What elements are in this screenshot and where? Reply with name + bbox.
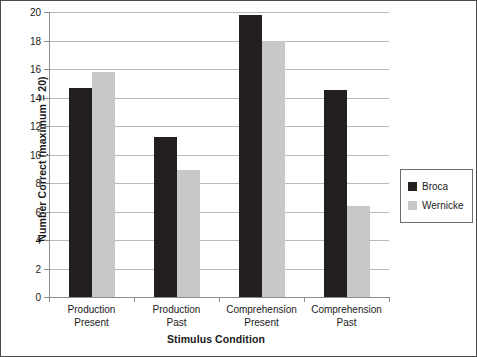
y-axis-tick-label: 16 [30,64,41,75]
x-axis-title: Stimulus Condition [1,333,431,345]
legend-label: Wernicke [422,200,464,211]
bar-broca-4 [324,90,347,297]
legend-swatch-wernicke [408,201,417,210]
bar-wernicke-4 [347,206,370,297]
bar-chart-figure: Number Correct (maximum = 20) 0246810121… [0,0,477,357]
gridline [49,12,389,13]
gridline [49,69,389,70]
legend-item-broca: Broca [408,177,472,196]
bar-wernicke-3 [262,41,285,298]
legend-item-wernicke: Wernicke [408,196,472,215]
y-axis-tick-label: 8 [35,178,41,189]
y-axis-tick-label: 12 [30,121,41,132]
y-axis-tick-label: 6 [35,206,41,217]
y-axis-tick-label: 18 [30,35,41,46]
x-axis-tick-label-line: Comprehension [292,304,401,317]
y-axis-tick-label: 14 [30,92,41,103]
plot-area: 02468101214161820 [49,12,389,297]
y-axis-tick-label: 10 [30,149,41,160]
legend-swatch-broca [408,182,417,191]
legend-label: Broca [422,181,448,192]
y-axis-tick-label: 4 [35,235,41,246]
y-axis-tick-label: 20 [30,7,41,18]
y-axis-tick-label: 2 [35,263,41,274]
bar-broca-3 [239,15,262,297]
gridline [49,41,389,42]
x-axis-line [49,297,389,298]
y-axis-tick-label: 0 [35,292,41,303]
x-axis-tick-mark [389,297,390,302]
x-axis-tick-label-line: Past [292,317,401,330]
bar-broca-2 [154,137,177,297]
bar-broca-1 [69,88,92,297]
bar-wernicke-1 [92,72,115,297]
x-axis-tick-label: ComprehensionPast [292,304,401,329]
bar-wernicke-2 [177,170,200,297]
y-axis-line [49,12,50,297]
chart-legend: BrocaWernicke [400,169,473,223]
